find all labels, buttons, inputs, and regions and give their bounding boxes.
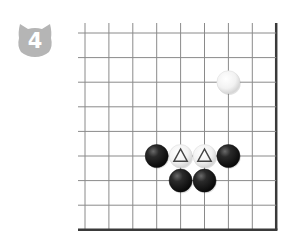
stones-layer — [145, 71, 241, 194]
black-stone — [217, 145, 241, 169]
white-stone — [217, 71, 241, 95]
board-grid — [78, 23, 277, 230]
go-board — [0, 0, 292, 243]
white-stone — [193, 145, 217, 169]
black-stone — [193, 169, 217, 193]
white-stone — [169, 145, 193, 169]
black-stone — [145, 145, 169, 169]
black-stone — [169, 169, 193, 193]
